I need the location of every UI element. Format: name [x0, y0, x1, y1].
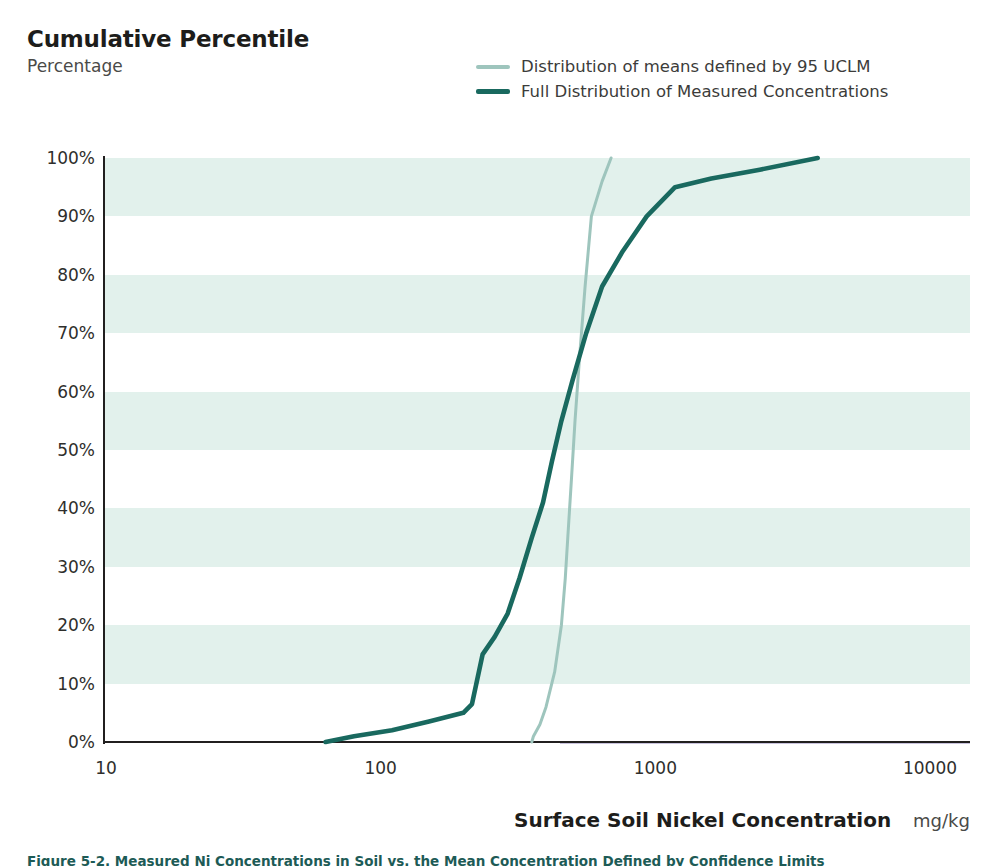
x-axis-units: mg/kg — [913, 810, 970, 831]
x-axis-title: Surface Soil Nickel Concentration — [514, 808, 891, 832]
series-line-full — [326, 158, 818, 742]
figure-container: Cumulative Percentile Percentage Distrib… — [0, 0, 1003, 866]
figure-caption: Figure 5-2. Measured Ni Concentrations i… — [27, 853, 987, 866]
series-line-uclm — [532, 158, 611, 742]
series-lines — [0, 0, 1003, 866]
